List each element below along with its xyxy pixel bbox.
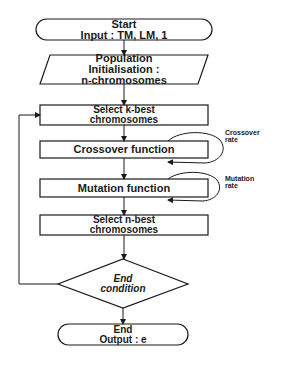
select-k-line2: chromosomes: [90, 115, 158, 125]
mutation-node: Mutation function: [40, 179, 208, 197]
mutation-rate-line2: rate: [225, 182, 254, 189]
end-condition-node: End condition: [78, 274, 168, 294]
start-input: Input : TM, LM, 1: [81, 30, 168, 41]
crossover-node: Crossover function: [40, 141, 208, 158]
population-node: Population Initialisation : n-chromosome…: [40, 55, 208, 84]
mutation-rate-annotation: Mutation rate: [225, 175, 254, 189]
population-line3: n-chromosomes: [81, 75, 167, 86]
select-n-node: Select n-best chromosomes: [40, 215, 208, 235]
crossover-rate-line2: rate: [225, 136, 260, 143]
mutation-label: Mutation function: [78, 183, 170, 194]
end-title: End: [114, 325, 133, 335]
end-output: Output : e: [99, 335, 146, 345]
end-condition-line2: condition: [101, 284, 146, 294]
start-node: Start Input : TM, LM, 1: [36, 19, 212, 40]
crossover-label: Crossover function: [74, 144, 175, 155]
mutation-rate-line1: Mutation: [225, 175, 254, 182]
crossover-rate-annotation: Crossover rate: [225, 129, 260, 143]
select-n-line2: chromosomes: [90, 225, 158, 235]
start-title: Start: [111, 19, 136, 30]
end-node: End Output : e: [58, 324, 188, 345]
select-k-node: Select k-best chromosomes: [40, 105, 208, 125]
crossover-rate-line1: Crossover: [225, 129, 260, 136]
